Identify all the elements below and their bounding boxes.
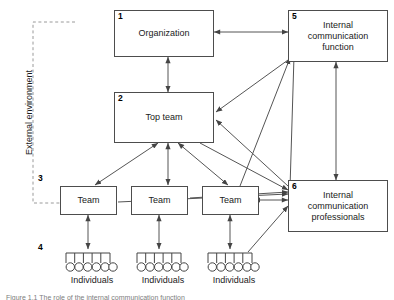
external-environment-label: External environment	[24, 70, 34, 155]
ic-professionals-line-1: Internal	[323, 190, 353, 200]
node-number-individuals-left: 4	[38, 243, 43, 252]
node-label-team-left: Team	[74, 195, 102, 206]
ic-professionals-line-2: communication	[308, 201, 369, 211]
node-number-organization: 1	[118, 12, 123, 21]
label-individuals-middle: Individuals	[127, 275, 199, 285]
diagram-canvas: External environment 1 Organization 2 To…	[0, 0, 394, 300]
connector-topteam-teamright	[178, 143, 228, 185]
node-label-ic-professionals: Internal communication professionals	[305, 190, 372, 223]
node-label-organization: Organization	[135, 28, 192, 39]
node-ic-professionals[interactable]: 6 Internal communication professionals	[288, 180, 388, 232]
node-number-team-left: 3	[38, 174, 43, 183]
node-organization[interactable]: 1 Organization	[114, 10, 214, 57]
ic-professionals-line-3: professionals	[311, 212, 364, 222]
ic-function-line-1: Internal	[323, 20, 353, 30]
ic-function-line-3: function	[322, 42, 354, 52]
node-ic-function[interactable]: 5 Internal communication function	[288, 10, 388, 62]
node-label-ic-function: Internal communication function	[305, 20, 372, 53]
individuals-group-left	[66, 253, 117, 271]
individuals-group-right	[208, 253, 259, 271]
node-number-top-team: 2	[118, 94, 123, 103]
node-number-ic-professionals: 6	[292, 182, 297, 191]
label-individuals-right: Individuals	[198, 275, 270, 285]
connector-topteam-icprofessionals	[200, 143, 288, 190]
node-team-right[interactable]: Team	[202, 186, 259, 215]
node-label-top-team: Top team	[142, 112, 185, 123]
node-team-middle[interactable]: Team	[131, 186, 188, 215]
node-label-team-right: Team	[216, 195, 244, 206]
node-label-team-middle: Team	[145, 195, 173, 206]
individuals-group-middle	[137, 253, 188, 271]
figure-caption: Figure 1.1 The role of the internal comm…	[6, 294, 185, 300]
node-team-left[interactable]: Team	[60, 186, 117, 215]
label-individuals-left: Individuals	[56, 275, 128, 285]
connector-topteam-teamleft	[95, 143, 158, 185]
node-number-ic-function: 5	[292, 12, 297, 21]
connector-icprofessionals-icfunction-diag	[290, 56, 294, 188]
ic-function-line-2: communication	[308, 31, 369, 41]
connector-icprofessionals-topteam	[216, 120, 288, 186]
connector-icfunction-topteam	[216, 60, 288, 112]
node-top-team[interactable]: 2 Top team	[114, 92, 214, 143]
